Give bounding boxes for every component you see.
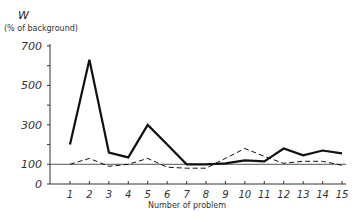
x-tick-label: 12 <box>277 189 290 200</box>
line-chart: 0100300500700123456789101112131415 <box>0 0 361 222</box>
series-solid-line <box>70 60 342 165</box>
y-tick-label: 500 <box>21 79 42 92</box>
x-tick-label: 13 <box>297 189 310 200</box>
x-tick-label: 5 <box>145 189 151 200</box>
x-tick-label: 10 <box>239 189 252 200</box>
y-tick-label: 300 <box>21 119 42 132</box>
x-tick-label: 3 <box>106 189 112 200</box>
x-tick-label: 4 <box>125 189 131 200</box>
x-tick-label: 9 <box>222 189 228 200</box>
x-tick-label: 2 <box>86 189 92 200</box>
x-axis-label: Number of problem <box>148 201 226 210</box>
x-tick-label: 7 <box>183 189 190 200</box>
x-tick-label: 6 <box>164 189 170 200</box>
y-tick-label: 100 <box>21 158 42 171</box>
x-tick-label: 1 <box>67 189 73 200</box>
y-tick-label: 0 <box>35 178 42 191</box>
x-tick-label: 11 <box>258 189 271 200</box>
x-tick-label: 8 <box>203 189 209 200</box>
x-tick-label: 15 <box>336 189 349 200</box>
x-tick-label: 14 <box>316 189 329 200</box>
y-tick-label: 700 <box>21 40 42 53</box>
